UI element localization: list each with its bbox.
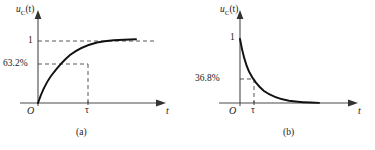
figure-container: uC(t) 1 63.2% O τ t (a) uC(t) 1 36.: [0, 0, 375, 150]
chart-panel-a: uC(t) 1 63.2% O τ t (a): [0, 0, 188, 150]
x-tick-label-tau-b: τ: [251, 106, 255, 116]
x-tick-label-tau-a: τ: [85, 106, 89, 116]
curve-charging-a: [38, 39, 136, 103]
caption-a: (a): [76, 128, 87, 138]
y-axis-label-b: uC(t): [220, 5, 238, 17]
x-axis-label-a: t: [166, 106, 169, 116]
chart-a-graphics: [0, 0, 188, 150]
chart-panel-b: uC(t) 1 36.8% O τ t (b): [187, 0, 375, 150]
caption-b: (b): [283, 128, 294, 138]
y-tick-label-percent-a: 63.2%: [3, 59, 28, 69]
y-tick-label-one-a: 1: [28, 36, 33, 46]
origin-label-b: O: [229, 106, 236, 116]
x-axis-label-b: t: [358, 106, 361, 116]
y-axis-label-a: uC(t): [16, 5, 34, 17]
y-axis-arrow-a: [35, 10, 42, 19]
x-axis-arrow-a: [156, 100, 166, 107]
y-tick-label-one-b: 1: [230, 33, 235, 43]
curve-discharging-b: [240, 39, 319, 103]
y-tick-label-percent-b: 36.8%: [195, 74, 220, 84]
origin-label-a: O: [27, 106, 34, 116]
x-axis-arrow-b: [348, 100, 358, 107]
